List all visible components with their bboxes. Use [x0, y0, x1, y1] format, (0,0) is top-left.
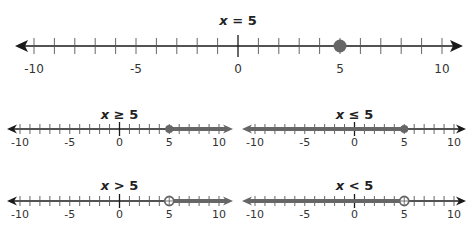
tick-label: -5 — [299, 136, 310, 149]
tick-label: -5 — [64, 208, 75, 221]
number-line-panel: x < 5-10-50510 — [242, 178, 466, 221]
tick-label: 10 — [447, 136, 461, 149]
tick-label: 0 — [351, 208, 358, 221]
tick-label: 5 — [166, 136, 173, 149]
tick-label: -5 — [130, 62, 142, 76]
tick-label: 0 — [351, 136, 358, 149]
tick-label: -10 — [24, 62, 44, 76]
closed-point-icon — [334, 40, 347, 53]
number-line-title: x < 5 — [335, 178, 373, 193]
number-line-title: x ≥ 5 — [100, 107, 138, 122]
number-line-title: x = 5 — [218, 13, 256, 28]
closed-point-icon — [400, 125, 408, 133]
tick-label: 5 — [401, 136, 408, 149]
title-relation: ≤ 5 — [344, 107, 373, 122]
number-line-panel: x ≥ 5-10-50510 — [7, 107, 233, 149]
title-relation: = 5 — [228, 13, 257, 28]
title-relation: ≥ 5 — [109, 107, 138, 122]
tick-label: 0 — [234, 62, 242, 76]
title-relation: > 5 — [109, 178, 138, 193]
number-line-panel: x = 5-10-50510 — [15, 13, 463, 76]
tick-label: 0 — [116, 208, 123, 221]
number-line-title: x ≤ 5 — [335, 107, 373, 122]
tick-label: -10 — [246, 208, 264, 221]
tick-label: -5 — [64, 136, 75, 149]
tick-label: 10 — [212, 208, 226, 221]
tick-label: 5 — [166, 208, 173, 221]
closed-point-icon — [165, 125, 173, 133]
number-line-panel: x > 5-10-50510 — [7, 178, 233, 221]
tick-label: 10 — [212, 136, 226, 149]
tick-label: -5 — [299, 208, 310, 221]
tick-label: -10 — [246, 136, 264, 149]
title-relation: < 5 — [344, 178, 373, 193]
tick-label: 5 — [401, 208, 408, 221]
number-lines-diagram: x = 5-10-50510x ≥ 5-10-50510x ≤ 5-10-505… — [0, 0, 471, 235]
number-line-panel: x ≤ 5-10-50510 — [242, 107, 466, 149]
tick-label: 0 — [116, 136, 123, 149]
number-line-title: x > 5 — [100, 178, 138, 193]
tick-label: 10 — [434, 62, 449, 76]
tick-label: 10 — [447, 208, 461, 221]
tick-label: 5 — [336, 62, 344, 76]
tick-label: -10 — [11, 136, 29, 149]
tick-label: -10 — [11, 208, 29, 221]
